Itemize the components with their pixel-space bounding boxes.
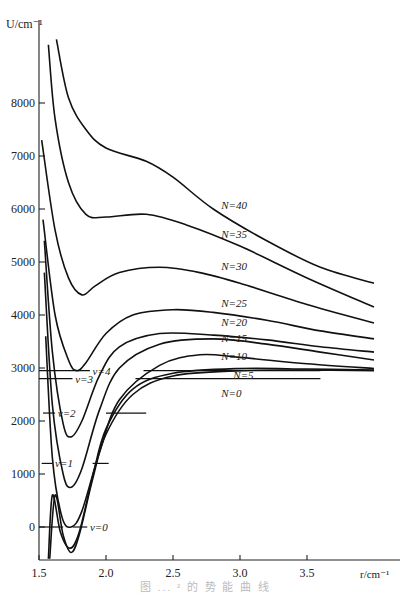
y-tick-label: 7000	[11, 149, 35, 163]
y-tick-label: 6000	[11, 202, 35, 216]
y-tick-label: 4000	[11, 308, 35, 322]
curve-n-40	[56, 39, 374, 283]
y-axis-label: U/cm⁻¹	[6, 17, 43, 31]
curve-label: N=15	[220, 332, 247, 344]
level-label: v=0	[90, 521, 108, 533]
potential-energy-chart: U/cm⁻¹ r/cm⁻¹ 1.52.02.53.03.501000200030…	[0, 0, 411, 596]
vibrational-levels: v=0v=1v=2v=3v=4	[39, 365, 320, 533]
level-label: v=4	[93, 365, 111, 377]
curves	[42, 39, 374, 558]
curve-n-30	[42, 140, 374, 323]
curve-label: N=40	[220, 199, 247, 211]
level-label: v=1	[55, 457, 73, 469]
y-tick-label: 2000	[11, 414, 35, 428]
y-tick-label: 5000	[11, 255, 35, 269]
y-tick-label: 0	[29, 520, 35, 534]
curve-label: N=5	[232, 369, 254, 381]
curve-n-15	[44, 273, 374, 488]
y-tick-label: 8000	[11, 96, 35, 110]
axes: U/cm⁻¹ r/cm⁻¹	[6, 17, 400, 580]
level-label: v=3	[75, 373, 93, 385]
figure-caption: 图 ... ² 的 势 能 曲 线	[0, 578, 411, 594]
curve-label: N=0	[220, 387, 242, 399]
curve-label: N=35	[220, 228, 247, 240]
y-tick-label: 3000	[11, 361, 35, 375]
curve-label: N=20	[220, 316, 247, 328]
y-tick-label: 1000	[11, 467, 35, 481]
curve-label: N=10	[220, 350, 247, 362]
level-label: v=2	[58, 407, 76, 419]
curve-label: N=25	[220, 297, 247, 309]
curve-label: N=30	[220, 260, 247, 272]
curve-n-35	[48, 45, 374, 307]
